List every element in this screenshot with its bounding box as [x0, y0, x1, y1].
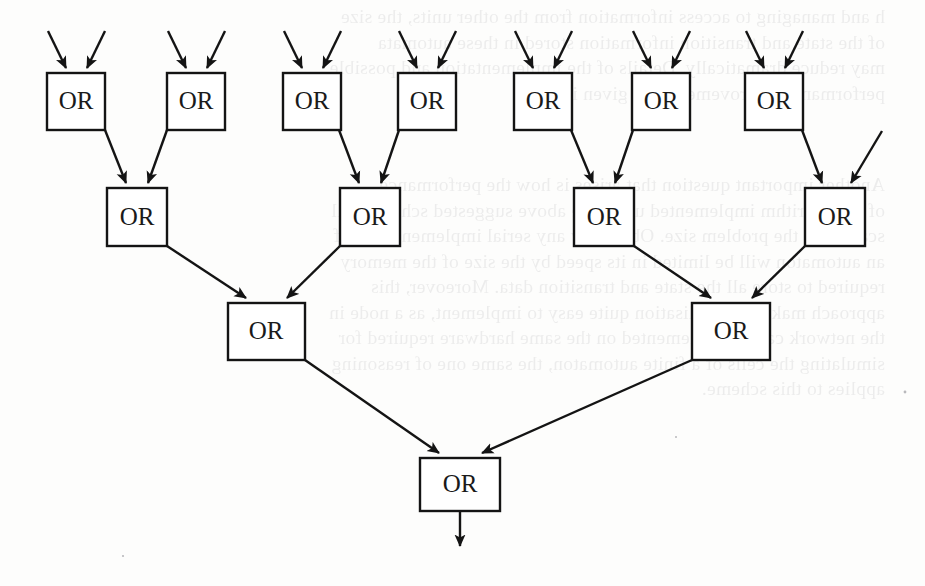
- or-gate[interactable]: OR: [514, 73, 572, 130]
- or-gate[interactable]: OR: [228, 303, 305, 360]
- or-gate[interactable]: OR: [574, 188, 634, 246]
- scan-noise: [122, 391, 906, 558]
- or-gate-label: OR: [353, 203, 388, 230]
- gate-row-3: OR OR: [228, 303, 770, 360]
- level3-to-level4-wires: [305, 360, 692, 453]
- or-gate-label: OR: [818, 203, 853, 230]
- or-gate[interactable]: OR: [167, 73, 225, 130]
- or-gate-label: OR: [59, 87, 94, 114]
- or-gate[interactable]: OR: [340, 188, 400, 246]
- level1-to-level2-wires: [105, 130, 822, 183]
- or-gate-label: OR: [526, 87, 561, 114]
- or-gate[interactable]: OR: [283, 73, 341, 130]
- or-gate-label: OR: [443, 470, 478, 497]
- or-gate-label: OR: [757, 87, 792, 114]
- or-gate-label: OR: [587, 203, 622, 230]
- or-gate-tree-diagram: OR OR OR OR OR OR: [0, 0, 925, 586]
- or-gate-label: OR: [714, 317, 749, 344]
- gate-row-2: OR OR OR OR: [107, 188, 865, 246]
- or-gate[interactable]: OR: [632, 73, 690, 130]
- level2-to-level3-wires: [167, 246, 805, 298]
- or-gate[interactable]: OR: [398, 73, 456, 130]
- or-gate-label: OR: [644, 87, 679, 114]
- or-gate[interactable]: OR: [745, 73, 803, 130]
- scanned-page: h and managing to access information fro…: [0, 0, 925, 586]
- or-gate-label: OR: [179, 87, 214, 114]
- gate-row-4: OR: [420, 458, 500, 511]
- or-gate-root[interactable]: OR: [420, 458, 500, 511]
- or-gate[interactable]: OR: [692, 303, 770, 360]
- gate-row-1: OR OR OR OR OR OR: [47, 73, 803, 130]
- or-gate-label: OR: [249, 317, 284, 344]
- or-gate-label: OR: [410, 87, 445, 114]
- or-gate[interactable]: OR: [107, 188, 167, 246]
- or-gate-label: OR: [295, 87, 330, 114]
- or-gate[interactable]: OR: [805, 188, 865, 246]
- or-gate[interactable]: OR: [47, 73, 105, 130]
- or-gate-label: OR: [120, 203, 155, 230]
